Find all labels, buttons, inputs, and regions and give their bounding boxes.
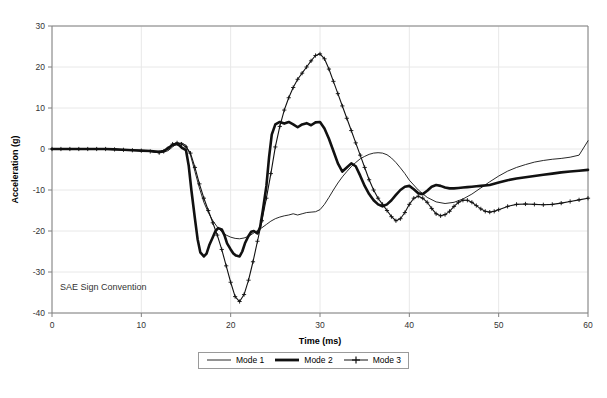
legend-swatch-mode-2 xyxy=(274,355,300,365)
svg-text:-30: -30 xyxy=(33,267,46,277)
chart-legend: Mode 1 Mode 2 Mode 3 xyxy=(0,352,607,369)
svg-text:50: 50 xyxy=(494,320,504,330)
legend-label-mode-1: Mode 1 xyxy=(236,355,264,365)
svg-text:20: 20 xyxy=(226,320,236,330)
y-axis-title: Acceleration (g) xyxy=(10,135,20,203)
svg-text:30: 30 xyxy=(315,320,325,330)
svg-text:0: 0 xyxy=(50,320,55,330)
axis-titles: Time (ms)Acceleration (g)SAE Sign Conven… xyxy=(10,135,341,346)
svg-text:10: 10 xyxy=(36,103,46,113)
legend-swatch-mode-3 xyxy=(343,355,369,365)
legend-label-mode-2: Mode 2 xyxy=(304,355,332,365)
x-axis-title: Time (ms) xyxy=(299,336,341,346)
legend-entry-mode-1[interactable]: Mode 1 xyxy=(206,355,264,365)
svg-text:20: 20 xyxy=(36,62,46,72)
svg-text:60: 60 xyxy=(583,320,593,330)
legend-box: Mode 1 Mode 2 Mode 3 xyxy=(198,352,409,369)
grid-lines xyxy=(52,26,588,313)
svg-text:-20: -20 xyxy=(33,226,46,236)
legend-label-mode-3: Mode 3 xyxy=(373,355,401,365)
legend-swatch-mode-1 xyxy=(206,355,232,365)
svg-text:10: 10 xyxy=(137,320,147,330)
svg-text:30: 30 xyxy=(36,21,46,31)
svg-text:-40: -40 xyxy=(33,308,46,318)
svg-text:0: 0 xyxy=(40,144,45,154)
chart-plot-area: 3020100-10-20-30-400102030405060 Time (m… xyxy=(0,0,607,398)
legend-entry-mode-3[interactable]: Mode 3 xyxy=(343,355,401,365)
svg-text:40: 40 xyxy=(405,320,415,330)
chart-figure: 3020100-10-20-30-400102030405060 Time (m… xyxy=(0,0,607,398)
legend-entry-mode-2[interactable]: Mode 2 xyxy=(274,355,332,365)
chart-annotation: SAE Sign Convention xyxy=(60,282,147,292)
svg-text:-10: -10 xyxy=(33,185,46,195)
